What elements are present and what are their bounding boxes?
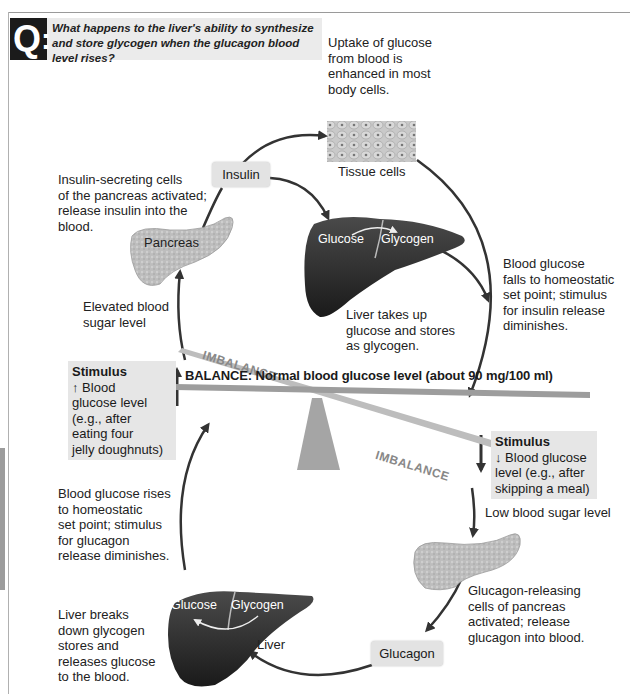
balance-label: BALANCE: Normal blood glucose level (abo… — [185, 368, 553, 383]
arrow-elevated-to-pancreas — [178, 272, 185, 360]
liver-breaks-text: Liver breaks down glycogen stores and re… — [58, 607, 156, 685]
arrow-liver-to-balance — [432, 246, 488, 300]
stimulus-down-box: Stimulus ↓ Blood glucose level (e.g., af… — [491, 431, 597, 499]
pancreas-bottom-image — [414, 534, 521, 590]
liver-bottom-glucose-label: Glucose — [171, 598, 217, 614]
elevated-sugar-text: Elevated blood sugar level — [83, 299, 169, 330]
liver-stores-text: Liver takes up glucose and stores as gly… — [346, 307, 455, 354]
pancreas-label: Pancreas — [144, 235, 199, 251]
tissue-cells-label: Tissue cells — [338, 164, 405, 180]
glucose-rises-text: Blood glucose rises to homeostatic set p… — [58, 486, 171, 564]
glucagon-label: Glucagon — [371, 641, 443, 666]
arrow-insulin-to-tissue — [243, 135, 325, 163]
low-sugar-text: Low blood sugar level — [485, 505, 611, 521]
arrow-tissue-to-balance — [417, 160, 491, 395]
seesaw-fulcrum — [297, 398, 340, 470]
uptake-text: Uptake of glucose from blood is enhanced… — [328, 35, 432, 97]
stimulus-up-box: Stimulus ↑ Blood glucose level (e.g., af… — [68, 361, 176, 460]
arrow-low-to-pancreas — [472, 488, 474, 535]
liver-bottom-label: Liver — [257, 637, 285, 653]
insulin-cells-text: Insulin-secreting cells of the pancreas … — [58, 172, 207, 234]
glucagon-cells-text: Glucagon-releasing cells of pancreas act… — [468, 583, 584, 645]
tissue-cells-image — [327, 121, 416, 162]
arrow-liver-to-balance-rises — [181, 425, 208, 570]
arrow-insulin-to-liver — [270, 178, 328, 218]
liver-bottom-glycogen-label: Glycogen — [231, 598, 284, 614]
glucose-falls-text: Blood glucose falls to homeostatic set p… — [503, 256, 614, 334]
seesaw-balance-beam — [175, 384, 590, 398]
liver-top-glycogen-label: Glycogen — [381, 232, 434, 248]
arrow-glucagon-to-liver — [250, 652, 372, 675]
insulin-label: Insulin — [212, 162, 270, 187]
liver-top-glucose-label: Glucose — [318, 232, 364, 248]
